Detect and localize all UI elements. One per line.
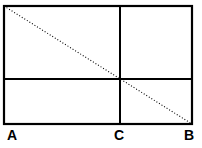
vertex-label-c: C [114,128,124,142]
vertex-label-a: A [7,128,17,142]
figure-canvas: A C B [0,0,202,148]
geometry-diagram [0,0,202,148]
vertex-label-b: B [184,128,194,142]
